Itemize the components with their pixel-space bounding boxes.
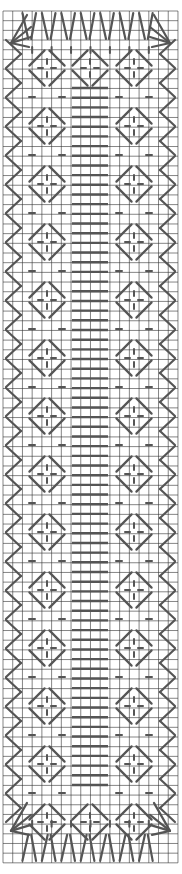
diamond-motif [116, 804, 151, 839]
left-zigzag [6, 214, 21, 228]
edge-v-stitch [139, 835, 145, 861]
diamond-side [29, 456, 44, 471]
right-zigzag [160, 199, 175, 213]
diamond-side [29, 108, 44, 123]
diamond-side [136, 456, 151, 471]
right-zigzag [160, 402, 175, 416]
left-zigzag [6, 649, 21, 663]
left-zigzag [6, 808, 21, 822]
diamond-side [29, 534, 44, 549]
left-zigzag [6, 185, 21, 199]
left-zigzag [6, 330, 21, 344]
right-zigzag [160, 620, 175, 634]
diamond-motif [29, 688, 64, 723]
right-zigzag [160, 373, 175, 387]
right-zigzag [160, 388, 175, 402]
left-zigzag [6, 475, 21, 489]
left-zigzag [6, 460, 21, 474]
edge-v-stitch [22, 835, 28, 861]
diamond-side [136, 108, 151, 123]
diamond-side [136, 630, 151, 645]
right-zigzag [160, 692, 175, 706]
diamond-side [136, 360, 151, 375]
diamond-side [136, 398, 151, 413]
left-zigzag [6, 272, 21, 286]
left-zigzag [6, 518, 21, 532]
left-zigzag [6, 562, 21, 576]
right-zigzag [160, 533, 175, 547]
diamond-side [136, 166, 151, 181]
diamond-side [136, 572, 151, 587]
right-zigzag [160, 446, 175, 460]
diamond-side [136, 302, 151, 317]
right-zigzag [160, 54, 175, 68]
right-zigzag [160, 707, 175, 721]
diamond-motif [29, 572, 64, 607]
left-zigzag [6, 591, 21, 605]
left-zigzag [6, 504, 21, 518]
left-zigzag [6, 344, 21, 358]
diamond-side [29, 708, 44, 723]
diamond-side [29, 340, 44, 355]
diamond-motif [29, 282, 64, 317]
diamond-side [29, 302, 44, 317]
right-zigzag [160, 344, 175, 358]
left-zigzag [6, 98, 21, 112]
diamond-side [136, 746, 151, 761]
diamond-side [29, 804, 44, 819]
diamond-side [29, 746, 44, 761]
diamond-motif [29, 108, 64, 143]
edge-v-stitch [120, 13, 126, 39]
right-zigzag [160, 736, 175, 750]
right-zigzag [160, 475, 175, 489]
right-zigzag [160, 257, 175, 271]
diamond-side [136, 650, 151, 665]
diamond-motif [29, 340, 64, 375]
right-zigzag [160, 518, 175, 532]
right-zigzag [160, 547, 175, 561]
diamond-motif [29, 224, 64, 259]
diamond-motif [116, 340, 151, 375]
edge-v-stitch [100, 835, 106, 861]
diamond-side [29, 688, 44, 703]
diamond-side [29, 282, 44, 297]
corner-fan-stitch [11, 831, 29, 835]
left-zigzag [6, 257, 21, 271]
left-zigzag [6, 721, 21, 735]
left-zigzag [6, 692, 21, 706]
diamond-motif [116, 282, 151, 317]
left-zigzag [6, 489, 21, 503]
right-zigzag [160, 750, 175, 764]
diamond-motif [116, 746, 151, 781]
right-zigzag [160, 576, 175, 590]
right-zigzag [160, 141, 175, 155]
diamond-side [29, 476, 44, 491]
diamond-side [136, 804, 151, 819]
diamond-side [136, 418, 151, 433]
right-zigzag [160, 112, 175, 126]
left-zigzag [6, 199, 21, 213]
diamond-motif [29, 398, 64, 433]
diamond-motif [29, 50, 64, 85]
right-zigzag [160, 170, 175, 184]
left-zigzag [6, 634, 21, 648]
diamond-side [29, 186, 44, 201]
left-zigzag [6, 373, 21, 387]
left-zigzag [6, 678, 21, 692]
left-zigzag [6, 127, 21, 141]
diamond-motif [29, 166, 64, 201]
left-zigzag [6, 228, 21, 242]
diamond-side [29, 224, 44, 239]
diamond-side [136, 514, 151, 529]
diamond-motif [116, 456, 151, 491]
right-zigzag [160, 504, 175, 518]
left-zigzag [6, 83, 21, 97]
left-zigzag [6, 576, 21, 590]
diamond-motif [29, 630, 64, 665]
diamond-side [136, 592, 151, 607]
right-zigzag [160, 634, 175, 648]
left-zigzag [6, 301, 21, 315]
diamond-side [29, 398, 44, 413]
right-zigzag [160, 214, 175, 228]
diamond-side [29, 244, 44, 259]
